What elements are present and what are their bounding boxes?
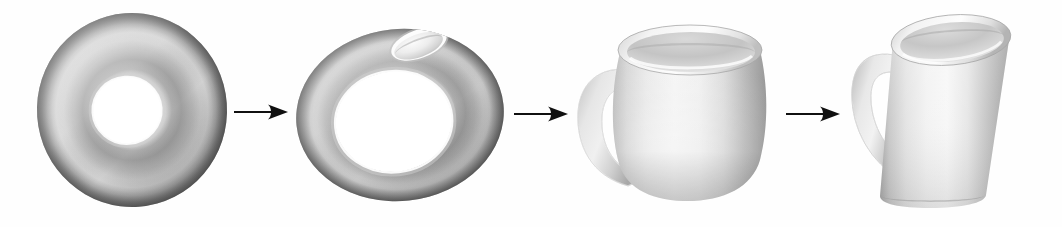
arrow-1 [234,105,288,120]
stage-2-torus-with-dimple [288,18,513,211]
arrow-3 [786,107,840,122]
stage-1-torus [30,7,233,214]
topology-figure: Topological deformation of a torus into … [0,0,1062,227]
stage-4-tapered-mug [852,10,1020,220]
arrow-head [820,107,840,122]
stage-3-rounded-mug [578,25,780,220]
arrow-head [268,105,288,120]
mug3-interior [627,32,755,72]
arrow-2 [514,107,568,122]
arrow-head [548,107,568,122]
figure-canvas [0,0,1062,227]
